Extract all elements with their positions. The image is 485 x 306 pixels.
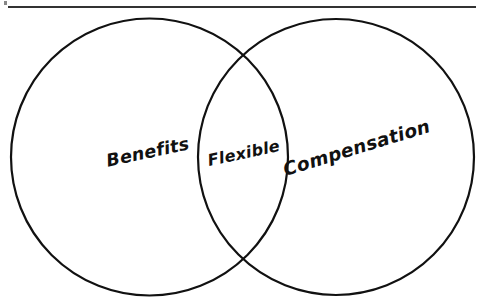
venn-label-left-group: Benefits xyxy=(104,133,191,170)
venn-diagram-figure: Benefits Flexible Compensation xyxy=(0,0,485,306)
venn-diagram-canvas: Benefits Flexible Compensation xyxy=(0,0,485,306)
venn-label-center-group: Flexible xyxy=(206,136,282,170)
venn-label-benefits: Benefits xyxy=(104,133,191,170)
venn-label-right-group: Compensation xyxy=(280,115,432,180)
venn-label-compensation: Compensation xyxy=(280,115,432,180)
top-left-artifact-mark xyxy=(4,1,7,5)
venn-label-flexible: Flexible xyxy=(206,136,282,170)
